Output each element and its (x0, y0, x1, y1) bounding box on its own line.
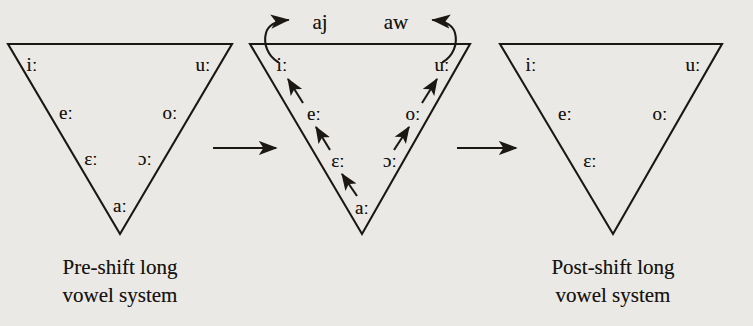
caption-post-shift: Post-shift long vowel system (551, 254, 674, 309)
shift-arrow-e-to-i (288, 79, 303, 103)
shift-arrow-eps-to-e (316, 127, 330, 150)
vowel-open-e-long: ɛː (331, 151, 345, 170)
vowel-e-long: eː (558, 104, 572, 123)
vowel-o-long: oː (405, 104, 420, 123)
vowel-u-long: uː (195, 55, 210, 74)
vowel-a-long: aː (113, 196, 127, 215)
vowel-u-long: uː (434, 55, 449, 74)
vowel-open-o-long: ɔː (138, 149, 152, 168)
caption-line-2: vowel system (63, 282, 178, 310)
vowel-open-e-long: ɛː (583, 151, 597, 170)
caption-line-1: Pre-shift long (63, 254, 178, 282)
vowel-u-long: uː (685, 55, 700, 74)
vowel-shift-figure: iː uː eː oː ɛː ɔː aː Pre-shift long vowe… (0, 0, 753, 326)
vowel-o-long: oː (652, 104, 667, 123)
shift-arrow-a-to-eps (342, 174, 357, 196)
vowel-i-long: iː (27, 55, 38, 74)
vowel-open-e-long: ɛː (84, 149, 98, 168)
glide-label-aw: aw (384, 12, 409, 33)
caption-line-1: Post-shift long (551, 254, 674, 282)
vowel-i-long: iː (526, 55, 537, 74)
caption-pre-shift: Pre-shift long vowel system (63, 254, 178, 309)
vowel-a-long: aː (355, 198, 369, 217)
shift-arrow-openo-to-o (394, 127, 409, 150)
caption-line-2: vowel system (551, 282, 674, 310)
vowel-e-long: eː (59, 103, 73, 122)
vowel-i-long: iː (277, 55, 288, 74)
vowel-open-o-long: ɔː (383, 151, 397, 170)
vowel-e-long: eː (307, 104, 321, 123)
vowel-o-long: oː (162, 103, 177, 122)
glide-label-aj: aj (312, 12, 327, 33)
shift-arrow-o-to-u (422, 79, 437, 103)
